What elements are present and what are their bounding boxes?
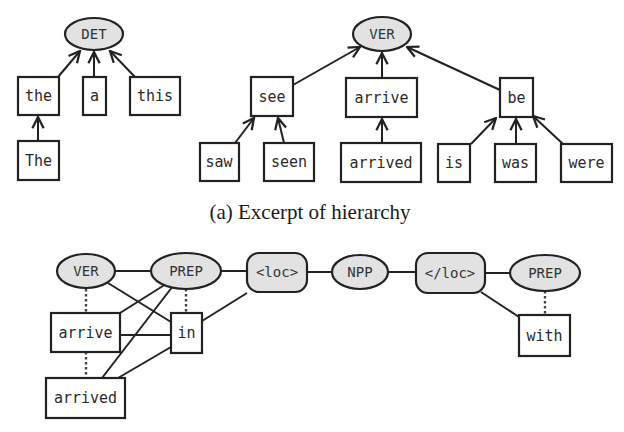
det-tree: DET the a this The — [18, 18, 180, 180]
edge-be-ver — [407, 47, 500, 90]
node-a-label: a — [90, 87, 99, 105]
node-arrive-label: arrive — [354, 89, 408, 107]
node-seen-label: seen — [271, 153, 307, 171]
edge-is-be — [471, 118, 496, 144]
node-det-label: DET — [81, 26, 107, 42]
seq-node-prep2-label: PREP — [528, 265, 562, 281]
seq-node-prep-label: PREP — [169, 263, 203, 279]
seq-node-loc-open-label: <loc> — [256, 264, 298, 280]
node-The-label: The — [25, 152, 52, 170]
edge-this-det — [110, 51, 135, 77]
edge-arrived-in — [118, 347, 171, 378]
node-is-label: is — [445, 154, 463, 172]
word-with-label: with — [526, 327, 562, 345]
edge-were-be — [533, 116, 563, 144]
node-this-label: this — [137, 87, 173, 105]
node-arrived-label: arrived — [349, 154, 412, 172]
node-see-label: see — [258, 88, 285, 106]
seq-node-loc-close-label: </loc> — [425, 265, 476, 281]
node-saw-label: saw — [205, 153, 233, 171]
ver-tree: VER see arrive be saw seen arrived is wa… — [200, 17, 612, 182]
caption-a: (a) Excerpt of hierarchy — [209, 200, 411, 224]
node-was-label: was — [502, 154, 529, 172]
edge-saw-see — [235, 118, 254, 143]
edge-in-loc — [202, 293, 247, 321]
word-in-label: in — [177, 324, 195, 342]
hierarchy-diagram: DET the a this The VER see arrive be saw… — [0, 0, 624, 432]
edge-the-det — [58, 51, 80, 77]
node-be-label: be — [507, 89, 525, 107]
node-were-label: were — [568, 154, 604, 172]
edge-arrive-prep — [120, 284, 166, 313]
edge-endloc-with — [481, 292, 519, 317]
pattern-graph: VER PREP <loc> NPP </loc> PREP arrive in… — [46, 253, 580, 418]
seq-node-npp-label: NPP — [347, 264, 372, 280]
word-arrived-label: arrived — [54, 389, 117, 407]
seq-node-ver-label: VER — [73, 263, 99, 279]
node-ver-label: VER — [369, 26, 395, 42]
word-arrive-label: arrive — [58, 324, 112, 342]
node-the-label: the — [25, 87, 52, 105]
edge-seen-see — [278, 118, 284, 143]
